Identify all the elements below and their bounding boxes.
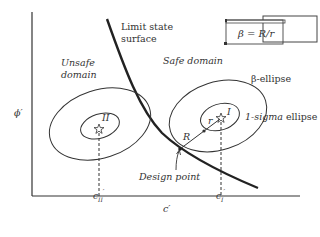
one-sigma-rest: ellipse (283, 111, 318, 122)
r-point (202, 129, 205, 132)
unsafe-domain-line1: Unsafe (61, 57, 95, 68)
c-I-label: cI′ (216, 188, 225, 203)
limit-state-label-line1: Limit state (121, 21, 173, 32)
y-axis-label: ϕ′ (14, 107, 23, 118)
c-II-prime: ′ (103, 188, 105, 196)
design-point-label: Design point (138, 171, 200, 182)
formula-box-corner-tl (225, 19, 227, 22)
x-axis-label: c′ (163, 203, 171, 214)
unsafe-domain-line2: domain (61, 69, 97, 80)
limit-state-label-line2: surface (121, 33, 157, 44)
one-sigma-italic: 1-sigma (245, 111, 283, 122)
formula-box-topbar (226, 20, 285, 23)
R-label: R (182, 131, 190, 142)
c-II-sub: II (97, 196, 103, 203)
formula-text: β = R/r (237, 28, 275, 39)
c-I-sub: I (220, 196, 224, 203)
c-I-prime: ′ (223, 188, 225, 196)
one-sigma-ellipse-label: 1-sigma ellipse (245, 111, 318, 122)
point-II-label: II (101, 112, 110, 123)
point-I-label: I (226, 106, 231, 117)
beta-ellipse-II (40, 76, 160, 173)
formula-box-corner-bl (224, 42, 227, 45)
safe-domain-label: Safe domain (163, 55, 223, 66)
beta-ellipse-label: β-ellipse (251, 73, 291, 84)
reliability-diagram: Limit state surface Unsafe domain Safe d… (0, 0, 320, 237)
star-icon-II (94, 124, 104, 133)
